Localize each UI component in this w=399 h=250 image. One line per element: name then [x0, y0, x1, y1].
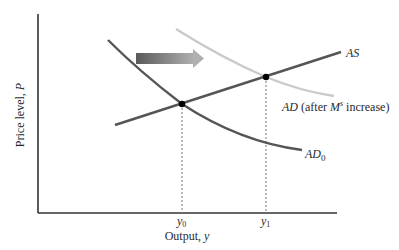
tick-y1: y1: [260, 214, 270, 229]
as-label: AS: [345, 46, 359, 60]
equilibrium-point-initial: [179, 101, 185, 107]
as-ad-chart: AS AD (after Ms increase) AD0 y0 y1 Outp…: [0, 0, 399, 250]
equilibrium-point-new: [263, 74, 269, 80]
tick-y0: y0: [176, 214, 186, 229]
ad0-label: AD0: [304, 147, 326, 163]
shift-arrow-icon: [136, 49, 204, 68]
ad-new-label: AD (after Ms increase): [281, 99, 389, 114]
y-axis-title: Price level, P: [13, 82, 27, 147]
x-axis-title: Output, y: [165, 229, 210, 243]
